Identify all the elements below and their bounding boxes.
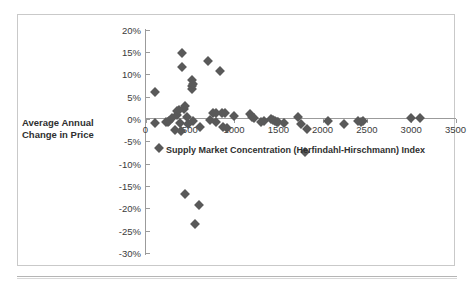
y-axis-title-line-1: Average Annual [22,117,114,129]
footer-rule-top [17,276,457,277]
x-axis-title: Supply Market Concentration (Herfindahl-… [166,145,425,155]
y-axis-title: Average Annual Change in Price [22,117,114,141]
footer-rule-bottom [17,278,457,279]
figure-page: 20%15%10%5%0%-5%-10%-15%-20%-25%-30% 050… [0,0,474,289]
y-axis-title-line-2: Change in Price [22,129,114,141]
x-tick [456,119,457,123]
